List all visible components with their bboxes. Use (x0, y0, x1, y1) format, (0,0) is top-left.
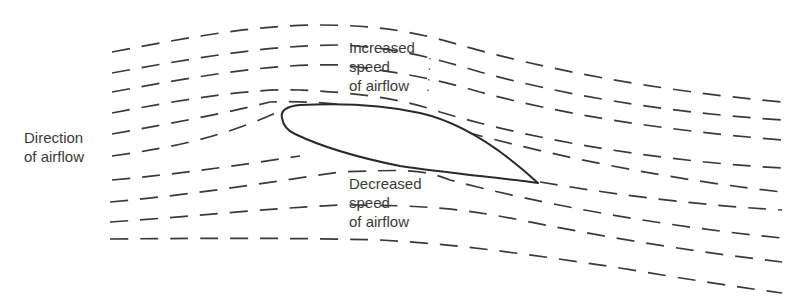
direction-label-line1: Direction (24, 128, 84, 147)
streamline-1 (112, 25, 782, 102)
streamline-10 (110, 238, 782, 293)
increased-label-line2: speed (349, 57, 415, 76)
streamline-9 (110, 205, 782, 262)
streamline-6 (112, 112, 278, 156)
decreased-speed-label: Decreased speed of airflow (349, 174, 422, 231)
decreased-label-line1: Decreased (349, 174, 422, 193)
increased-leader (428, 58, 430, 92)
decreased-label-line2: speed (349, 193, 422, 212)
streamline-8 (110, 170, 782, 238)
decreased-label-line3: of airflow (349, 212, 422, 231)
direction-label: Direction of airflow (24, 128, 84, 166)
increased-speed-label: Increased speed of airflow (349, 38, 415, 95)
streamline-6b (540, 182, 782, 210)
increased-label-line1: Increased (349, 38, 415, 57)
streamline-7 (112, 156, 300, 180)
direction-label-line2: of airflow (24, 147, 84, 166)
increased-label-line3: of airflow (349, 76, 415, 95)
